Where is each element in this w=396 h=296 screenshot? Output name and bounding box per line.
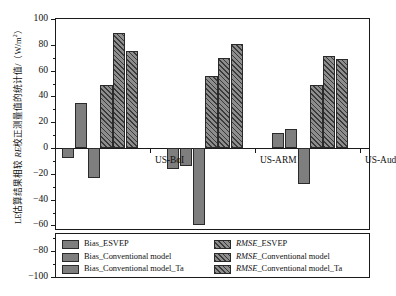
bar (193, 148, 205, 225)
bar (205, 76, 217, 148)
y-axis-tick-label: −80 (14, 245, 48, 255)
legend-label: RMSE_Conventional model (236, 253, 330, 261)
bar (231, 44, 243, 148)
y-axis-tick-label: −20 (14, 168, 48, 178)
legend-swatch (62, 265, 79, 274)
legend-label: Bias_Conventional model_Ta (84, 265, 184, 273)
legend-label: Bias_Conventional model (84, 253, 171, 261)
y-axis-tick (51, 71, 56, 72)
bar (100, 85, 112, 148)
y-axis-label-superscript: 2 (12, 34, 18, 37)
legend-item[interactable]: RMSE_ESVEP (214, 238, 287, 251)
legend-label: RMSE_Conventional model_Ta (236, 265, 342, 273)
bar (126, 51, 138, 148)
zero-axis-line (56, 148, 369, 149)
legend-swatch (214, 265, 231, 274)
x-axis-group-tick (255, 148, 256, 153)
x-axis-group-label: US-Aud (365, 156, 396, 165)
legend-item[interactable]: RMSE_Conventional model (214, 251, 330, 264)
bar (272, 133, 284, 148)
bar (113, 33, 125, 148)
y-axis-tick-label: 60 (14, 65, 48, 75)
x-axis-group-label: US-ARM (260, 156, 296, 165)
x-axis-group-tick (360, 148, 361, 153)
y-axis-tick (51, 19, 56, 20)
bar (88, 148, 100, 178)
y-axis-tick-label: −40 (14, 194, 48, 204)
y-axis-minor-tick (53, 84, 56, 85)
y-axis-tick-label: −100 (14, 271, 48, 281)
bar (285, 129, 297, 148)
y-axis-tick (51, 174, 56, 175)
bar (323, 56, 335, 148)
y-axis-tick (51, 148, 56, 149)
legend-label-italic: RMSE (236, 252, 257, 261)
legend-label-italic: RMSE (236, 264, 257, 273)
y-axis-tick-label: 0 (14, 142, 48, 152)
y-axis-minor-tick (53, 161, 56, 162)
y-axis-tick-label: 80 (14, 39, 48, 49)
bar (75, 103, 87, 148)
bar (298, 148, 310, 184)
legend-label: RMSE_ESVEP (236, 240, 287, 248)
legend-item[interactable]: RMSE_Conventional model_Ta (214, 263, 342, 276)
y-axis-tick (51, 200, 56, 201)
bar (336, 59, 348, 148)
legend: Bias_ESVEPBias_Conventional modelBias_Co… (55, 233, 370, 278)
y-axis-minor-tick (53, 109, 56, 110)
y-axis-tick (51, 45, 56, 46)
y-axis-minor-tick (53, 187, 56, 188)
y-axis-minor-tick (53, 58, 56, 59)
legend-label: Bias_ESVEP (84, 240, 129, 248)
y-axis-tick (51, 122, 56, 123)
x-axis-group-label: US-BoI (155, 156, 184, 165)
y-axis-tick (51, 225, 56, 226)
y-axis-tick-label: 40 (14, 90, 48, 100)
y-axis-label-end: ） (13, 25, 23, 34)
y-axis-tick-label: 20 (14, 116, 48, 126)
legend-swatch (214, 240, 231, 249)
plot-area: US-BoIUS-ARMUS-Aud (55, 18, 370, 230)
x-axis-group-tick (150, 148, 151, 153)
legend-swatch (62, 240, 79, 249)
bar (62, 148, 74, 158)
y-axis-tick (51, 96, 56, 97)
bar (218, 58, 230, 148)
y-axis-minor-tick (53, 213, 56, 214)
y-axis-tick-label: −60 (14, 219, 48, 229)
y-axis-tick-label: 100 (14, 13, 48, 23)
legend-swatch (62, 253, 79, 262)
legend-item[interactable]: Bias_Conventional model (62, 251, 171, 264)
legend-item[interactable]: Bias_Conventional model_Ta (62, 263, 184, 276)
bar (310, 85, 322, 148)
y-axis-minor-tick (53, 135, 56, 136)
legend-swatch (214, 253, 231, 262)
legend-item[interactable]: Bias_ESVEP (62, 238, 129, 251)
legend-label-italic: RMSE (236, 239, 257, 248)
